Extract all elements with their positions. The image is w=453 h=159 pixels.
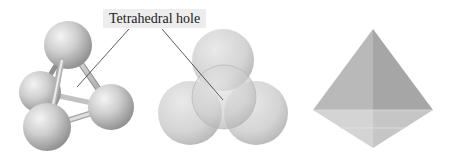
figure: Tetrahedral hole	[0, 0, 453, 159]
tetrahedral-hole-label: Tetrahedral hole	[103, 9, 206, 28]
sphere-front-bottom	[23, 103, 71, 151]
face-right	[373, 29, 433, 110]
face-bottom-left	[313, 110, 373, 148]
tetrahedron-shape	[313, 29, 433, 148]
face-bottom-right	[373, 110, 433, 148]
figure-graphics	[0, 0, 453, 159]
space-filling-model	[158, 29, 288, 145]
sphere-top	[44, 21, 92, 69]
face-left	[313, 29, 373, 110]
sphere-right	[88, 84, 134, 130]
ball-and-stick-model	[19, 21, 134, 151]
